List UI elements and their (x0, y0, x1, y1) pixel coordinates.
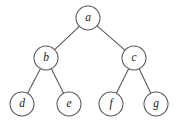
tree-node-f[interactable]: f (99, 92, 123, 116)
tree-node-e[interactable]: e (57, 92, 81, 116)
tree-node-a[interactable]: a (76, 6, 100, 30)
tree-node-g[interactable]: g (144, 92, 168, 116)
tree-edge-a-c (97, 26, 125, 50)
tree-edge-a-b (55, 26, 80, 49)
node-label-g: g (153, 97, 159, 110)
binary-tree-figure: abcdefg (0, 0, 182, 124)
tree-node-c[interactable]: c (122, 46, 146, 70)
tree-canvas: abcdefg (0, 0, 182, 124)
node-layer: abcdefg (10, 6, 168, 116)
node-label-a: a (85, 11, 91, 23)
node-label-b: b (43, 51, 49, 63)
tree-edge-c-f (116, 69, 128, 94)
node-label-d: d (19, 97, 25, 109)
tree-edge-b-e (51, 69, 63, 94)
tree-node-b[interactable]: b (34, 46, 58, 70)
node-label-e: e (66, 97, 71, 109)
tree-edge-b-d (28, 69, 41, 94)
node-label-c: c (131, 51, 136, 63)
tree-edge-c-g (139, 69, 151, 93)
tree-node-d[interactable]: d (10, 92, 34, 116)
